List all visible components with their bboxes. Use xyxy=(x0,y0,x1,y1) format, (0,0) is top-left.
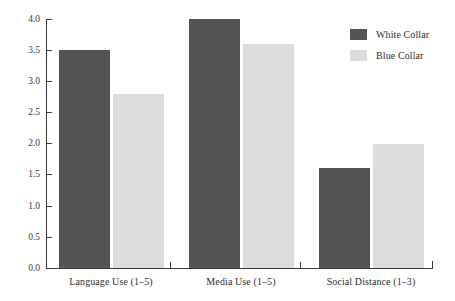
bar-white-collar-social-distance xyxy=(319,168,370,268)
legend-swatch-blue-collar xyxy=(350,50,367,61)
y-tick-label-1: 0.5 xyxy=(0,232,40,242)
y-tick-label-5: 2.5 xyxy=(0,107,40,117)
y-tick-label-3: 1.5 xyxy=(0,169,40,179)
y-tick-label-0: 0.0 xyxy=(0,263,40,273)
legend-label-blue-collar: Blue Collar xyxy=(376,50,423,61)
y-tick-label-2: 1.0 xyxy=(0,201,40,211)
category-label-social-distance: Social Distance (1–3) xyxy=(327,276,416,287)
bar-blue-collar-media-use xyxy=(243,44,294,268)
legend-item-white-collar: White Collar xyxy=(350,26,429,43)
y-tick-label-6: 3.0 xyxy=(0,76,40,86)
y-tick-label-4: 2.0 xyxy=(0,138,40,148)
bar-blue-collar-social-distance xyxy=(373,144,424,269)
legend-label-white-collar: White Collar xyxy=(376,29,429,40)
legend-item-blue-collar: Blue Collar xyxy=(350,47,429,64)
category-label-media-use: Media Use (1–5) xyxy=(206,276,275,287)
y-tick-label-7: 3.5 xyxy=(0,45,40,55)
x-axis-line xyxy=(46,268,433,269)
legend-swatch-white-collar xyxy=(350,29,367,40)
legend: White Collar Blue Collar xyxy=(350,26,429,68)
bar-chart: 0.0 0.5 1.0 1.5 2.0 2.5 3.0 3.5 4.0 Lang… xyxy=(0,0,455,301)
bar-white-collar-language-use xyxy=(59,50,110,268)
category-label-language-use: Language Use (1–5) xyxy=(69,276,152,287)
bar-blue-collar-language-use xyxy=(113,94,164,268)
y-tick-label-8: 4.0 xyxy=(0,14,40,24)
x-axis-end-cap xyxy=(432,261,433,269)
bar-white-collar-media-use xyxy=(189,19,240,268)
